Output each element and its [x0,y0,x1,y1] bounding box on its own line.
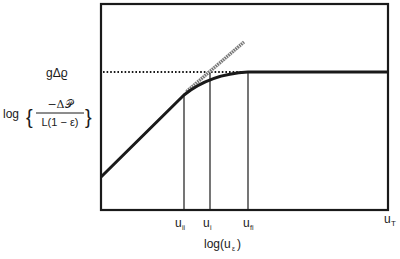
plot-frame [101,4,388,210]
y-axis-denominator: L(1 − ε) [41,116,78,128]
svg-text:T: T [391,219,396,228]
x-tick-u-fi: u fi [243,216,254,231]
svg-text:u: u [175,216,182,230]
x-axis-label: log(u ε ) [204,237,241,252]
svg-text:fi: fi [250,224,254,231]
svg-text:ii: ii [182,224,186,231]
y-axis-log-prefix: log [3,107,19,121]
x-tick-u-ii: u ii [175,216,186,231]
svg-text:): ) [237,237,241,251]
x-tick-u-i: u i [203,216,212,231]
svg-text:u: u [384,212,391,226]
y-axis-left-brace: { [26,106,33,128]
diagram-canvas: gΔϱ log { −Δ𝒫 L(1 − ε) } u ii u i u fi u… [0,0,400,259]
svg-text:i: i [210,224,212,231]
pressure-drop-curve [101,72,388,177]
svg-text:u: u [243,216,250,230]
y-axis-numerator: −Δ𝒫 [47,98,74,111]
svg-text:u: u [203,216,210,230]
svg-text:ε: ε [232,245,235,252]
plateau-label: gΔϱ [46,66,68,80]
svg-text:log(u: log(u [204,237,231,251]
y-axis-right-brace: } [85,106,92,128]
y-axis-label: log { −Δ𝒫 L(1 − ε) } [3,98,92,128]
x-tick-u-T: u T [384,212,396,228]
